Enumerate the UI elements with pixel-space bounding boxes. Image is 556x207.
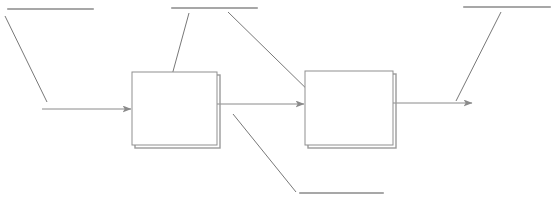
diagram-canvas — [0, 0, 556, 207]
callout-group-3 — [456, 7, 550, 101]
callout-group-1 — [5, 9, 93, 102]
block-2[interactable] — [305, 71, 396, 148]
block-1[interactable] — [132, 72, 220, 148]
block-2-body — [305, 71, 393, 145]
callout-leader-line-5 — [233, 114, 296, 192]
callout-leader-line-4 — [456, 12, 501, 101]
diagram-vector-layer — [0, 0, 556, 207]
block-1-body — [132, 72, 217, 145]
callout-leader-line-1 — [5, 16, 47, 102]
